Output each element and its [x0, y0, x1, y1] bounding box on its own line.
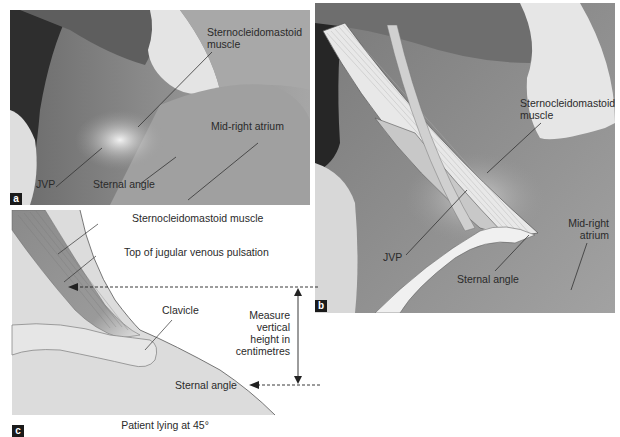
label-measure-4: centimetres — [220, 345, 290, 357]
panel-c-diagram: Sternocleidomastoid muscle Top of jugula… — [0, 210, 320, 437]
panel-tag-a: a — [10, 193, 22, 205]
panel-a-photo: Sternocleidomastoid muscle Mid-right atr… — [10, 10, 310, 205]
label-scm-b-1: Sternocleidomastoid — [520, 97, 615, 109]
label-scm-c: Sternocleidomastoid muscle — [132, 212, 263, 224]
label-clavicle-c: Clavicle — [162, 304, 199, 316]
label-measure-3: height in — [220, 333, 290, 345]
label-mra-b-1: Mid-right — [559, 217, 609, 229]
label-scm-a-2: muscle — [207, 38, 240, 50]
label-sternal-angle-b: Sternal angle — [457, 273, 519, 285]
panel-b-photo: Sternocleidomastoid muscle JVP Sternal a… — [315, 3, 615, 313]
label-scm-b-2: muscle — [520, 109, 553, 121]
label-jvp-b: JVP — [383, 251, 402, 263]
panel-tag-c: c — [12, 425, 24, 437]
label-mra-b-2: atrium — [559, 229, 609, 241]
label-measure-1: Measure — [220, 309, 290, 321]
label-scm-a-1: Sternocleidomastoid — [207, 26, 302, 38]
label-measure-2: vertical — [220, 321, 290, 333]
label-jvp-a: JVP — [36, 178, 55, 190]
label-mid-right-atrium-a: Mid-right atrium — [211, 120, 284, 132]
neck-photo-b — [315, 3, 615, 313]
neck-photo-a — [10, 10, 310, 205]
label-sternal-angle-c: Sternal angle — [175, 379, 237, 391]
label-sternal-angle-a: Sternal angle — [93, 178, 155, 190]
label-top-jvp-c: Top of jugular venous pulsation — [124, 246, 269, 258]
caption-patient-45: Patient lying at 45° — [80, 419, 250, 431]
